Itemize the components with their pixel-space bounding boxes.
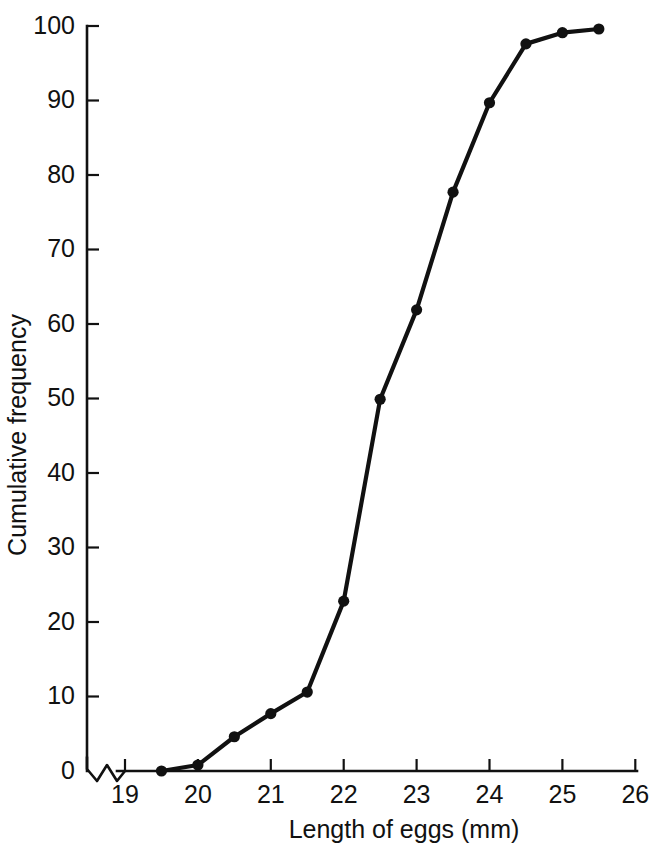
data-point-marker xyxy=(447,187,458,198)
y-axis-tick-label: 10 xyxy=(47,681,75,709)
y-axis-title: Cumulative frequency xyxy=(3,314,31,556)
data-point-marker xyxy=(338,596,349,607)
y-axis-tick-label: 80 xyxy=(47,160,75,188)
x-axis-tick-label: 24 xyxy=(476,780,504,808)
data-point-marker xyxy=(375,394,386,405)
y-axis-ticks: 0102030405060708090100 xyxy=(33,11,99,784)
x-axis-break-icon xyxy=(87,757,125,781)
chart-container: 0102030405060708090100 1920212223242526 … xyxy=(0,0,662,857)
x-axis-tick-label: 19 xyxy=(111,780,139,808)
y-axis-tick-label: 50 xyxy=(47,383,75,411)
cumulative-frequency-chart: 0102030405060708090100 1920212223242526 … xyxy=(0,0,662,857)
x-axis-title: Length of eggs (mm) xyxy=(289,815,520,843)
data-point-marker xyxy=(302,686,313,697)
data-point-marker xyxy=(192,759,203,770)
data-point-marker xyxy=(411,304,422,315)
data-series xyxy=(156,23,605,776)
x-axis-tick-label: 21 xyxy=(257,780,285,808)
data-point-marker xyxy=(520,38,531,49)
data-point-marker xyxy=(156,765,167,776)
y-axis-tick-label: 20 xyxy=(47,607,75,635)
data-point-marker xyxy=(557,27,568,38)
x-axis-tick-label: 26 xyxy=(621,780,649,808)
data-point-marker xyxy=(593,23,604,34)
data-point-marker xyxy=(229,731,240,742)
y-axis-tick-label: 70 xyxy=(47,234,75,262)
x-axis-tick-label: 20 xyxy=(184,780,212,808)
y-axis-tick-label: 60 xyxy=(47,309,75,337)
x-axis-tick-label: 23 xyxy=(403,780,431,808)
y-axis-tick-label: 0 xyxy=(61,756,75,784)
x-axis-tick-label: 22 xyxy=(330,780,358,808)
y-axis-tick-label: 90 xyxy=(47,85,75,113)
data-point-marker xyxy=(484,97,495,108)
y-axis-tick-label: 40 xyxy=(47,458,75,486)
series-markers xyxy=(156,23,605,776)
axes xyxy=(87,26,637,781)
y-axis-tick-label: 100 xyxy=(33,11,75,39)
data-point-marker xyxy=(265,708,276,719)
y-axis-tick-label: 30 xyxy=(47,532,75,560)
x-axis-tick-label: 25 xyxy=(548,780,576,808)
